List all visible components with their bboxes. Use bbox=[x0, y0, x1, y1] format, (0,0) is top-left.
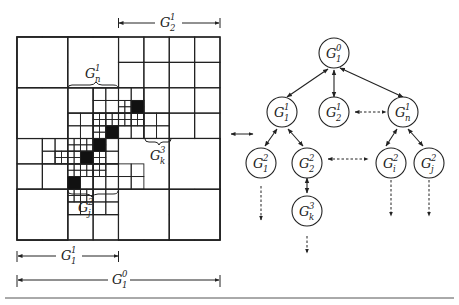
svg-text:1: 1 bbox=[284, 113, 289, 123]
svg-text:G: G bbox=[85, 66, 95, 81]
svg-text:n: n bbox=[405, 113, 410, 123]
svg-text:G: G bbox=[299, 204, 309, 219]
tree-node-g21: G21 bbox=[246, 148, 276, 178]
svg-text:3: 3 bbox=[160, 145, 165, 155]
svg-text:1: 1 bbox=[263, 164, 268, 174]
svg-text:k: k bbox=[160, 156, 165, 166]
svg-text:1: 1 bbox=[284, 102, 289, 112]
tree-node-g3k: G3k bbox=[292, 196, 322, 226]
label-gk3: G 3 k bbox=[150, 145, 165, 166]
tree-node-g11: G11 bbox=[267, 97, 297, 127]
svg-text:2: 2 bbox=[392, 153, 398, 163]
svg-text:0: 0 bbox=[122, 269, 128, 279]
svg-text:G: G bbox=[299, 156, 309, 171]
tree-node-g2j: G2j bbox=[414, 148, 444, 178]
tree-node-g2i: G2i bbox=[376, 148, 406, 178]
svg-text:2: 2 bbox=[308, 164, 314, 174]
tree-node-g22: G22 bbox=[292, 148, 322, 178]
svg-text:2: 2 bbox=[430, 153, 436, 163]
svg-text:G: G bbox=[421, 156, 431, 171]
svg-text:G: G bbox=[326, 46, 336, 61]
svg-text:2: 2 bbox=[335, 113, 341, 123]
grid-hierarchy-diagram: G 1 n G 3 k G 2 j G 1 2 G 1 1 G 0 1 bbox=[0, 0, 459, 305]
svg-text:1: 1 bbox=[95, 63, 100, 73]
tree-node-g1n: G1n bbox=[388, 97, 418, 127]
tree-node-root: G01 bbox=[319, 38, 349, 68]
dimension-bottom-full: G 0 1 bbox=[17, 269, 220, 290]
svg-text:1: 1 bbox=[336, 54, 341, 64]
svg-text:G: G bbox=[253, 156, 263, 171]
svg-text:G: G bbox=[78, 200, 88, 215]
svg-text:2: 2 bbox=[87, 197, 93, 207]
svg-text:3: 3 bbox=[309, 201, 314, 211]
svg-text:1: 1 bbox=[71, 245, 76, 255]
svg-text:1: 1 bbox=[122, 280, 127, 290]
svg-text:2: 2 bbox=[169, 23, 175, 33]
tree-node-g12: G12 bbox=[319, 97, 349, 127]
svg-text:G: G bbox=[326, 105, 336, 120]
svg-text:2: 2 bbox=[308, 153, 314, 163]
svg-text:1: 1 bbox=[336, 102, 341, 112]
svg-text:0: 0 bbox=[336, 43, 342, 53]
svg-text:k: k bbox=[309, 212, 314, 222]
svg-text:1: 1 bbox=[71, 256, 76, 266]
svg-text:G: G bbox=[61, 248, 71, 263]
svg-text:G: G bbox=[160, 15, 170, 30]
svg-text:G: G bbox=[395, 105, 405, 120]
svg-text:G: G bbox=[274, 105, 284, 120]
svg-text:1: 1 bbox=[405, 102, 410, 112]
svg-text:n: n bbox=[95, 74, 100, 84]
svg-text:G: G bbox=[112, 272, 122, 287]
label-gn1: G 1 n bbox=[85, 63, 100, 84]
svg-text:1: 1 bbox=[170, 12, 175, 22]
svg-text:i: i bbox=[393, 164, 396, 174]
svg-text:2: 2 bbox=[262, 153, 268, 163]
nested-grid bbox=[17, 37, 220, 240]
svg-text:G: G bbox=[150, 148, 160, 163]
dimension-top: G 1 2 bbox=[119, 12, 221, 33]
dimension-bottom-half: G 1 1 bbox=[17, 245, 119, 266]
svg-text:G: G bbox=[383, 156, 393, 171]
